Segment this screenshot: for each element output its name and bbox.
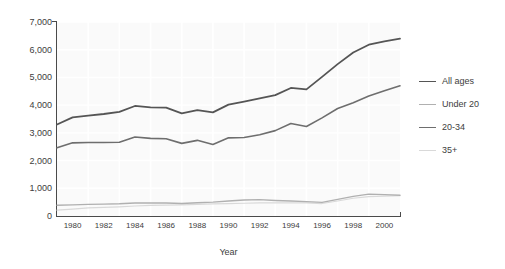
x-tick-label: 1980 <box>58 222 88 230</box>
chart-legend: All agesUnder 2020-3435+ <box>419 70 505 162</box>
x-gridlines <box>88 22 369 216</box>
series-line <box>57 39 400 125</box>
legend-line-swatch <box>419 127 436 128</box>
y-tick-label: 6,000 <box>4 46 52 55</box>
legend-item[interactable]: All ages <box>419 70 505 93</box>
y-tick-label: 5,000 <box>4 73 52 82</box>
legend-line-swatch <box>419 81 436 82</box>
x-tick-label: 1996 <box>307 222 337 230</box>
x-tick-label: 1994 <box>276 222 306 230</box>
series-line <box>57 86 400 148</box>
series-lines <box>57 39 400 211</box>
legend-item[interactable]: 20-34 <box>419 116 505 139</box>
x-tick-label: 1982 <box>89 222 119 230</box>
legend-item-label: Under 20 <box>442 100 479 109</box>
x-axis-tick-labels: 1980198219841986198819901992199419961998… <box>0 222 505 236</box>
y-tick-label: 4,000 <box>4 101 52 110</box>
legend-item[interactable]: Under 20 <box>419 93 505 116</box>
legend-item-label: All ages <box>442 77 474 86</box>
y-tick-label: 7,000 <box>4 18 52 27</box>
legend-item-label: 35+ <box>442 146 457 155</box>
x-tick-label: 1990 <box>214 222 244 230</box>
x-tick-label: 1984 <box>120 222 150 230</box>
line-chart: 01,0002,0003,0004,0005,0006,0007,000 198… <box>0 0 505 269</box>
y-tick-label: 2,000 <box>4 157 52 166</box>
x-tick-label: 2000 <box>369 222 399 230</box>
y-tick-label: 0 <box>4 212 52 221</box>
x-tick-label: 1998 <box>338 222 368 230</box>
legend-line-swatch <box>419 104 436 105</box>
legend-item-label: 20-34 <box>442 123 465 132</box>
y-tick-label: 1,000 <box>4 184 52 193</box>
legend-line-swatch <box>419 150 436 151</box>
x-tick-label: 1988 <box>182 222 212 230</box>
legend-item[interactable]: 35+ <box>419 139 505 162</box>
x-tick-label: 1992 <box>245 222 275 230</box>
x-tick-label: 1986 <box>151 222 181 230</box>
x-axis-title: Year <box>57 248 400 257</box>
y-tick-label: 3,000 <box>4 129 52 138</box>
